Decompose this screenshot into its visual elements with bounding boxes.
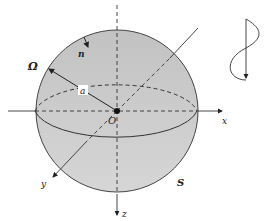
label-origin: O bbox=[108, 115, 116, 126]
label-radius: a bbox=[80, 86, 85, 96]
label-surface: S bbox=[177, 177, 184, 188]
label-y-axis: y bbox=[40, 179, 47, 189]
label-z-axis: z bbox=[121, 209, 127, 219]
y-axis-back bbox=[170, 28, 198, 58]
origin-point bbox=[114, 108, 120, 114]
label-x-axis: x bbox=[222, 116, 227, 126]
label-domain: Ω bbox=[27, 60, 38, 73]
rotation-sense-icon bbox=[230, 19, 259, 80]
label-normal: n bbox=[78, 49, 85, 59]
sphere-diagram: Ω n a O x y z S bbox=[0, 0, 267, 221]
